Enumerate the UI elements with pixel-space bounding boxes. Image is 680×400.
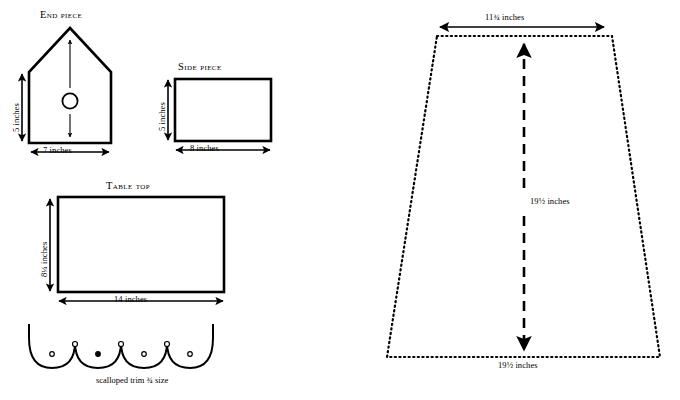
scalloped-trim-group [29,324,213,368]
end-piece-height-label: 5 inches [12,103,21,132]
pattern-diagram: End piece 7 inches 5 inches Side piece 8… [0,0,680,400]
side-piece-group [168,79,271,150]
skirt-panel-group [387,27,660,357]
end-piece-title: End piece [40,10,82,21]
scalloped-trim-scallop-hole [96,352,101,357]
scalloped-trim-peak-hole [73,342,78,347]
side-piece-outline [175,79,271,141]
skirt-panel-center-label: 19½ inches [530,197,570,206]
end-piece-width-label: 7 inches [43,146,72,155]
scalloped-trim-peak-hole [119,342,124,347]
scalloped-trim-peak-hole [165,342,170,347]
table-top-height-label: 8¼ inches [40,242,49,277]
diagram-canvas [0,0,680,400]
end-piece-group [22,28,111,152]
skirt-panel-top-label: 11¾ inches [485,13,524,22]
side-piece-width-label: 8 inches [190,144,219,153]
scalloped-trim-scallop-hole [188,352,193,357]
table-top-group [50,197,224,301]
table-top-title: Table top [106,181,150,192]
scalloped-trim-scallop-hole [142,352,147,357]
side-piece-height-label: 5 inches [158,102,167,131]
end-piece-entry-hole [62,93,77,108]
table-top-outline [58,197,224,292]
skirt-panel-bottom-label: 19½ inches [498,361,538,370]
table-top-width-label: 14 inches [114,295,147,304]
scalloped-trim-scallop-hole [50,352,55,357]
scalloped-trim-caption: scalloped trim ¾ size [96,376,168,385]
side-piece-title: Side piece [178,62,222,73]
